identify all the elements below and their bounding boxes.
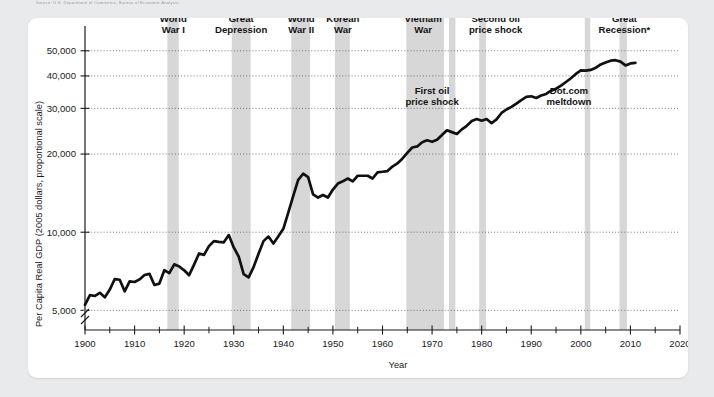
x-tick-label: 1990 (521, 338, 542, 349)
x-tick-label: 1920 (173, 338, 194, 349)
inner-annotations-group: First oilprice shockDot.commeltdown (405, 85, 591, 107)
annotation-first-oil-price-shock: price shock (405, 96, 459, 107)
recession-band (232, 18, 251, 330)
x-tick-label: 1910 (124, 338, 145, 349)
x-tick-label: 2000 (570, 338, 591, 349)
y-tick-label: 50,000 (47, 45, 76, 56)
x-axis-label: Year (389, 360, 408, 370)
annotation-world-war-i: World (160, 18, 187, 24)
y-tick-labels-group: 5,00010,00020,00030,00040,00050,000 (47, 45, 76, 316)
annotation-korean-war: War (334, 24, 352, 35)
y-tick-label: 30,000 (47, 103, 76, 114)
annotation-vietnam-war: Vietnam (405, 18, 442, 24)
x-tick-label: 1900 (74, 338, 95, 349)
x-tick-label: 1950 (322, 338, 343, 349)
source-note: Source: U.S. Department of Commerce, Bur… (36, 0, 180, 5)
annotation-dotcom-meltdown: Dot.com (550, 85, 588, 96)
recession-band (585, 18, 590, 330)
recession-band (335, 18, 350, 330)
annotation-great-recession: Recession* (599, 24, 651, 35)
annotation-first-oil-price-shock: First oil (415, 85, 450, 96)
annotation-great-depression: Great (229, 18, 255, 24)
recession-band (449, 18, 455, 330)
annotation-second-oil-price-shock: price shock (469, 24, 523, 35)
recession-band (406, 18, 444, 330)
recession-band (479, 18, 486, 330)
annotation-great-recession: Great (612, 18, 638, 24)
y-tick-label: 10,000 (47, 227, 76, 238)
x-tick-labels-group: 1900191019201930194019501960197019801990… (74, 338, 688, 349)
chart-plot-area: 5,00010,00020,00030,00040,00050,000 1900… (28, 18, 688, 378)
recession-bands-group (167, 18, 627, 330)
annotation-dotcom-meltdown: meltdown (547, 96, 592, 107)
y-tick-label: 20,000 (47, 148, 76, 159)
x-tick-label: 1940 (273, 338, 294, 349)
chart-card: 5,00010,00020,00030,00040,00050,000 1900… (28, 18, 688, 378)
x-tick-label: 2010 (620, 338, 641, 349)
recession-band (291, 18, 310, 330)
y-tick-label: 5,000 (52, 305, 76, 316)
x-tick-label: 1960 (372, 338, 393, 349)
y-axis-label: Per Capita Real GDP (2005 dollars, propo… (34, 101, 44, 327)
annotation-second-oil-price-shock: Second oil (471, 18, 520, 24)
annotation-world-war-i: War I (162, 24, 185, 35)
x-tick-label: 1980 (471, 338, 492, 349)
y-tick-label: 40,000 (47, 70, 76, 81)
annotation-great-depression: Depression (215, 24, 267, 35)
top-annotations-group: WorldWar IGreatDepressionWorldWar IIKore… (160, 18, 651, 35)
x-tick-label: 1970 (421, 338, 442, 349)
annotation-vietnam-war: War (414, 24, 432, 35)
x-tick-label: 2020 (669, 338, 688, 349)
gdp-line-chart: 5,00010,00020,00030,00040,00050,000 1900… (28, 18, 688, 378)
annotation-korean-war: Korean (326, 18, 359, 24)
annotation-world-war-ii: War II (288, 24, 314, 35)
recession-band (167, 18, 178, 330)
x-tick-label: 1930 (223, 338, 244, 349)
annotation-world-war-ii: World (288, 18, 315, 24)
